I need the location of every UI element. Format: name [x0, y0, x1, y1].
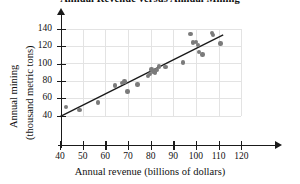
y-axis-tick-label: 100 — [0, 59, 52, 69]
data-point — [77, 108, 81, 112]
data-point — [200, 52, 204, 56]
y-axis-tick — [57, 46, 66, 47]
y-axis-tick — [57, 64, 66, 65]
x-axis-tick-label: 120 — [226, 152, 256, 162]
data-point — [122, 79, 126, 83]
y-axis-tick — [57, 29, 66, 30]
x-axis-tick — [105, 141, 106, 150]
chart-container: Annual Revenue versus Annual Mining Annu… — [0, 0, 300, 184]
y-axis-tick — [57, 98, 66, 99]
y-axis-tick-label: 60 — [0, 93, 52, 103]
data-point — [157, 64, 161, 68]
data-point — [188, 32, 192, 36]
trend-line — [60, 35, 223, 117]
x-axis-title: Annual revenue (billions of dollars) — [0, 166, 300, 177]
y-axis-tick-label: 140 — [0, 24, 52, 34]
data-point — [135, 82, 139, 86]
x-axis-tick — [241, 141, 242, 150]
data-point — [96, 100, 100, 104]
y-axis-tick — [57, 116, 66, 117]
x-axis-tick — [128, 141, 129, 150]
x-axis-tick — [151, 141, 152, 150]
y-axis-tick-label: 120 — [0, 41, 52, 51]
data-point — [163, 65, 167, 69]
x-axis-tick — [60, 141, 61, 150]
data-point — [125, 89, 129, 93]
x-axis-tick — [196, 141, 197, 150]
y-axis-tick — [57, 81, 66, 82]
y-axis-tick-label: 80 — [0, 76, 52, 86]
data-point — [181, 60, 185, 64]
data-point — [218, 41, 222, 45]
x-axis-tick — [173, 141, 174, 150]
x-axis-tick — [219, 141, 220, 150]
y-axis-tick-label: 40 — [0, 111, 52, 121]
x-axis-tick — [83, 141, 84, 150]
